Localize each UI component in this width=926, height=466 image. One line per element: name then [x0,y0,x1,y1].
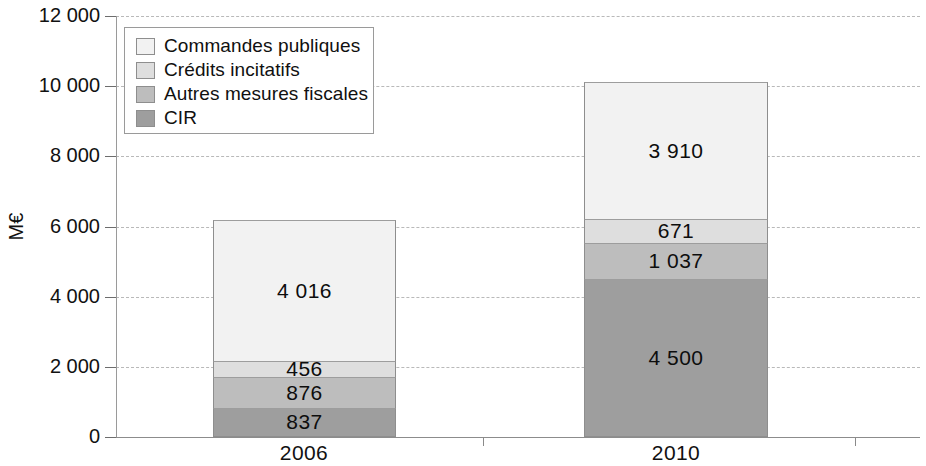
y-tick-label-2000: 2 000 [0,355,100,378]
bar-2006[interactable]: 4 016 456 876 837 [213,220,396,437]
legend-item-cir[interactable]: CIR [136,106,373,130]
bar-2010-value-autres-mesures-fiscales: 1 037 [648,249,703,273]
stacked-bar-chart-figure: 12 000 10 000 8 000 6 000 4 000 2 000 0 … [0,0,926,466]
legend-item-credits-incitatifs[interactable]: Crédits incitatifs [136,58,373,82]
x-tick-mark-right [855,437,856,446]
legend-swatch-icon-cir [136,110,155,127]
legend-swatch-icon-credits-incitatifs [136,62,155,79]
bar-2006-value-commandes-publiques: 4 016 [277,279,332,303]
legend-label-cir: CIR [164,107,197,129]
legend-label-autres-mesures-fiscales: Autres mesures fiscales [164,83,368,105]
y-tick-mark-4000 [105,297,116,298]
legend-swatch-icon-autres-mesures-fiscales [136,86,155,103]
bar-2010-segment-commandes-publiques[interactable]: 3 910 [584,82,768,219]
legend-label-credits-incitatifs: Crédits incitatifs [164,59,300,81]
bar-2006-segment-credits-incitatifs[interactable]: 456 [213,361,396,377]
bar-2010-value-credits-incitatifs: 671 [658,219,695,243]
bar-2006-segment-autres-mesures-fiscales[interactable]: 876 [213,377,396,408]
bar-2010-value-cir: 4 500 [648,346,703,370]
y-tick-mark-10000 [105,86,116,87]
gridline-8000 [116,156,920,157]
y-tick-mark-0 [105,437,116,438]
bar-2010-value-commandes-publiques: 3 910 [648,139,703,163]
x-label-2010: 2010 [596,441,756,465]
y-tick-mark-12000 [105,16,116,17]
legend: Commandes publiques Crédits incitatifs A… [124,27,374,134]
x-tick-mark-midpoint [483,437,484,446]
legend-label-commandes-publiques: Commandes publiques [164,35,360,57]
y-tick-label-12000: 12 000 [0,4,100,27]
bar-2006-segment-cir[interactable]: 837 [213,408,396,437]
bar-2010-segment-credits-incitatifs[interactable]: 671 [584,219,768,243]
y-tick-label-10000: 10 000 [0,74,100,97]
legend-item-commandes-publiques[interactable]: Commandes publiques [136,34,373,58]
bar-2006-value-cir: 837 [286,410,323,434]
y-tick-label-0: 0 [0,425,100,448]
bar-2006-segment-commandes-publiques[interactable]: 4 016 [213,220,396,361]
y-tick-mark-2000 [105,367,116,368]
y-axis-title: M€ [5,197,28,257]
bar-2006-value-autres-mesures-fiscales: 876 [286,381,323,405]
gridline-12000 [116,16,920,17]
bar-2010-segment-autres-mesures-fiscales[interactable]: 1 037 [584,243,768,279]
legend-item-autres-mesures-fiscales[interactable]: Autres mesures fiscales [136,82,373,106]
gridline-0-baseline [116,437,920,438]
bar-2010[interactable]: 3 910 671 1 037 4 500 [584,82,768,437]
y-tick-label-8000: 8 000 [0,144,100,167]
bar-2010-segment-cir[interactable]: 4 500 [584,279,768,437]
legend-swatch-icon-commandes-publiques [136,38,155,55]
y-tick-mark-6000 [105,227,116,228]
y-axis-spine [116,16,117,437]
y-tick-label-4000: 4 000 [0,285,100,308]
y-tick-mark-8000 [105,156,116,157]
x-label-2006: 2006 [224,441,384,465]
